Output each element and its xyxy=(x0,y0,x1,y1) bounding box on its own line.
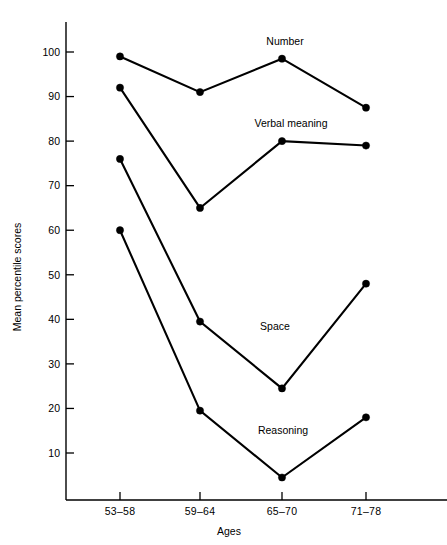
series-line xyxy=(120,159,366,388)
series-data-point xyxy=(278,55,285,62)
series-data-point xyxy=(196,318,203,325)
x-tick-label: 71–78 xyxy=(351,505,382,517)
y-tick-label: 20 xyxy=(48,402,60,414)
x-tick-label: 65–70 xyxy=(267,505,298,517)
series-data-point xyxy=(116,155,123,162)
y-tick-label: 60 xyxy=(48,224,60,236)
series-data-point xyxy=(116,53,123,60)
series-data-point xyxy=(362,280,369,287)
series-data-point xyxy=(278,474,285,481)
line-chart: 102030405060708090100 53–5859–6465–7071–… xyxy=(0,0,447,545)
y-tick-label: 50 xyxy=(48,269,60,281)
x-tick-label: 59–64 xyxy=(185,505,216,517)
series-data-point xyxy=(362,104,369,111)
series-lines-group xyxy=(120,56,366,477)
series-data-point xyxy=(196,204,203,211)
y-axis-ticks xyxy=(66,52,74,453)
y-tick-label: 100 xyxy=(42,46,60,58)
y-axis-tick-labels: 102030405060708090100 xyxy=(42,46,60,459)
y-axis-title: Mean percentile scores xyxy=(11,223,23,332)
series-label-number: Number xyxy=(266,35,304,47)
y-tick-label: 90 xyxy=(48,90,60,102)
series-data-point xyxy=(278,385,285,392)
series-label-reasoning: Reasoning xyxy=(258,424,308,436)
x-axis-title: Ages xyxy=(217,525,241,537)
series-line xyxy=(120,88,366,208)
series-data-point xyxy=(362,142,369,149)
x-tick-label: 53–58 xyxy=(105,505,136,517)
series-label-space: Space xyxy=(260,320,290,332)
x-axis-tick-labels: 53–5859–6465–7071–78 xyxy=(105,505,382,517)
series-data-point xyxy=(196,89,203,96)
series-line xyxy=(120,56,366,107)
series-markers-group xyxy=(116,53,369,481)
series-data-point xyxy=(278,138,285,145)
y-tick-label: 70 xyxy=(48,179,60,191)
x-axis-ticks xyxy=(120,492,366,500)
chart-container: 102030405060708090100 53–5859–6465–7071–… xyxy=(0,0,447,545)
series-data-point xyxy=(116,227,123,234)
series-data-point xyxy=(196,407,203,414)
y-tick-label: 10 xyxy=(48,447,60,459)
series-data-point xyxy=(116,84,123,91)
series-data-point xyxy=(362,414,369,421)
y-tick-label: 80 xyxy=(48,135,60,147)
series-label-verbal-meaning: Verbal meaning xyxy=(255,117,328,129)
series-line xyxy=(120,230,366,477)
y-tick-label: 40 xyxy=(48,313,60,325)
y-tick-label: 30 xyxy=(48,358,60,370)
